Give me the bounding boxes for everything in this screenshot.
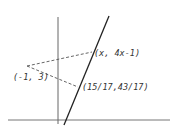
external-point-label: (-1, 3) (13, 73, 49, 82)
general-point-label: (x, 4x-1) (94, 49, 140, 58)
diagram-svg (0, 0, 170, 140)
foot-point-label: (15/17,43/17) (82, 83, 149, 92)
line-y-equals-4x-minus-1 (64, 16, 109, 125)
diagram-canvas: (x, 4x-1) (-1, 3) (15/17,43/17) (0, 0, 170, 140)
dashed-segment-to-general-point (27, 52, 92, 66)
